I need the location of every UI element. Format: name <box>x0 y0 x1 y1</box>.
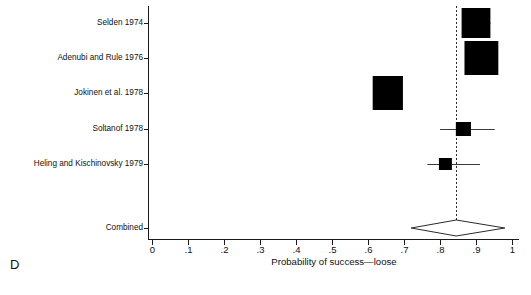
study-row <box>440 122 495 136</box>
study-label: Soltanof 1978 <box>92 124 143 133</box>
x-tick-label: .7 <box>401 244 409 255</box>
study-label: Heling and Kischinovsky 1979 <box>34 159 144 168</box>
x-tick-label: 0 <box>150 244 155 255</box>
study-row <box>427 158 480 170</box>
x-tick-label: .2 <box>221 244 229 255</box>
x-tick-label: .4 <box>293 244 301 255</box>
study-label: Combined <box>106 223 144 232</box>
x-tick-label: .6 <box>365 244 373 255</box>
forest-plot-svg: Selden 1974Adenubi and Rule 1976Jokinen … <box>0 0 531 295</box>
study-row <box>373 76 403 110</box>
study-label: Adenubi and Rule 1976 <box>57 53 143 62</box>
x-axis-tick-labels: 0.1.2.3.4.5.6.7.8.91 <box>150 244 515 255</box>
x-tick-label: .1 <box>185 244 193 255</box>
x-tick-label: 1 <box>510 244 515 255</box>
study-effect-box <box>456 122 471 136</box>
study-label: Jokinen et al. 1978 <box>74 88 143 97</box>
x-tick-label: .9 <box>473 244 481 255</box>
x-axis-title: Probability of success—loose <box>271 256 396 267</box>
combined-diamond <box>411 220 505 236</box>
y-axis-labels: Selden 1974Adenubi and Rule 1976Jokinen … <box>34 18 144 232</box>
x-tick-label: .8 <box>437 244 445 255</box>
combined-estimate-diamond <box>411 220 505 236</box>
y-axis-tick-marks <box>144 24 149 229</box>
x-tick-label: .3 <box>257 244 265 255</box>
study-label: Selden 1974 <box>97 18 143 27</box>
study-markers <box>373 8 499 170</box>
forest-plot-figure: Selden 1974Adenubi and Rule 1976Jokinen … <box>0 0 531 295</box>
study-row <box>464 41 498 75</box>
study-effect-box <box>439 158 452 170</box>
study-row <box>462 8 491 38</box>
x-tick-label: .5 <box>329 244 337 255</box>
study-effect-box <box>462 8 491 38</box>
study-effect-box <box>464 41 498 75</box>
panel-label: D <box>10 257 19 272</box>
study-effect-box <box>373 76 403 110</box>
